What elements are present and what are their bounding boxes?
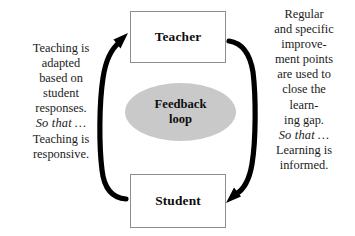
left-text-line: adapted <box>2 56 120 71</box>
student-node: Student <box>130 174 226 228</box>
left-connector-phrase: So that … <box>2 116 120 131</box>
left-text-line: based on <box>2 71 120 86</box>
right-text-line: close the <box>254 82 354 97</box>
right-text-line: ing gap. <box>254 113 354 128</box>
left-text-line: Teaching is <box>2 41 120 56</box>
left-outcome-line: responsive. <box>2 147 120 162</box>
right-connector-phrase: So that … <box>254 128 354 143</box>
feedback-loop-label-line1: Feedback <box>155 97 207 112</box>
right-text-line: and specific <box>254 22 354 37</box>
right-text-line: learn- <box>254 98 354 113</box>
right-text-line: are used to <box>254 67 354 82</box>
left-annotation-text: Teaching is adapted based on student res… <box>2 41 120 162</box>
left-outcome-line: Teaching is <box>2 132 120 147</box>
left-text-line: responses. <box>2 101 120 116</box>
right-text-line: improve- <box>254 37 354 52</box>
teacher-node: Teacher <box>130 11 226 63</box>
feedback-loop-diagram: Teaching is adapted based on student res… <box>0 0 355 236</box>
feedback-loop-label-line2: loop <box>155 112 207 127</box>
feedback-loop-ellipse: Feedback loop <box>125 83 236 141</box>
right-outcome-line: informed. <box>254 158 354 173</box>
student-label: Student <box>155 193 201 209</box>
teacher-label: Teacher <box>155 29 202 45</box>
right-annotation-text: Regular and specific improve- ment point… <box>254 7 354 173</box>
feedback-loop-label: Feedback loop <box>155 97 207 127</box>
right-text-line: ment points <box>254 52 354 67</box>
right-outcome-line: Learning is <box>254 143 354 158</box>
right-text-line: Regular <box>254 7 354 22</box>
left-text-line: student <box>2 86 120 101</box>
